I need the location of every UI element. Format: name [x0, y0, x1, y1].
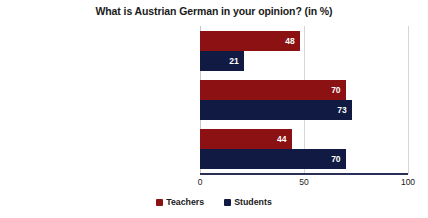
- chart-title: What is Austrian German in your opinion?…: [0, 5, 428, 17]
- category-band: 4821: [200, 26, 408, 75]
- bar-value-label: 48: [285, 36, 299, 46]
- bar-value-label: 70: [331, 85, 345, 95]
- x-axis-line: [200, 173, 408, 175]
- plot-area: 482170734470: [200, 26, 408, 174]
- legend-label-students: Students: [234, 197, 272, 207]
- bar-value-label: 21: [229, 56, 243, 66]
- bar-teachers: 70: [200, 80, 346, 100]
- bar-value-label: 70: [331, 154, 345, 164]
- bar-students: 70: [200, 149, 346, 169]
- category-band: 4470: [200, 125, 408, 174]
- x-axis-tick-label: 100: [401, 177, 415, 187]
- legend-label-teachers: Teachers: [166, 197, 204, 207]
- bar-value-label: 44: [277, 134, 291, 144]
- bar-teachers: 48: [200, 31, 300, 51]
- legend-swatch-students: [224, 199, 231, 206]
- x-axis-tick-label: 50: [299, 177, 308, 187]
- gridline: [408, 26, 409, 174]
- chart-legend: Teachers Students: [0, 197, 428, 207]
- legend-item-teachers[interactable]: Teachers: [156, 197, 204, 207]
- legend-swatch-teachers: [156, 199, 163, 206]
- bar-value-label: 73: [337, 105, 351, 115]
- x-axis-tick-label: 0: [198, 177, 203, 187]
- bar-students: 73: [200, 100, 352, 120]
- category-band: 7073: [200, 75, 408, 124]
- legend-item-students[interactable]: Students: [224, 197, 272, 207]
- bar-students: 21: [200, 51, 244, 71]
- bar-chart: What is Austrian German in your opinion?…: [0, 0, 428, 218]
- bar-teachers: 44: [200, 129, 292, 149]
